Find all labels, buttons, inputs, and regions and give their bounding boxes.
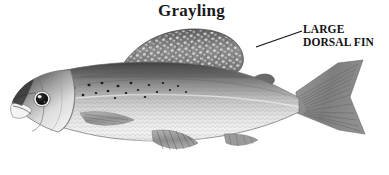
fish-body-group: [10, 25, 365, 150]
grayling-illustration: [0, 0, 389, 175]
eye: [34, 91, 50, 107]
eye-highlight: [38, 95, 42, 98]
grayling-figure: Grayling LARGE DORSAL FIN: [0, 0, 389, 175]
